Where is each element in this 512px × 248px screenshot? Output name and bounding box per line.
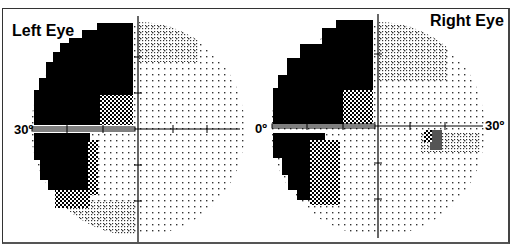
left-eye-30-left-label: 30º [14,122,33,137]
right-eye-left-label: 0º [255,121,267,136]
right-eye-field [270,20,490,240]
left-eye-title: Left Eye [12,22,74,40]
right-eye-title: Right Eye [430,12,504,30]
right-eye-30-right-label: 30º [485,118,504,133]
